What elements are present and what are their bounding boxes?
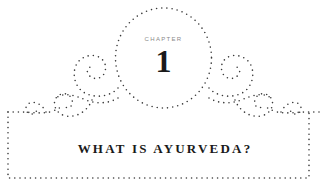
left-scroll-upper bbox=[74, 56, 118, 97]
chapter-opener: CHAPTER 1 WHAT IS AYURVEDA? bbox=[0, 0, 330, 185]
right-scroll-lower bbox=[235, 94, 273, 117]
right-scroll-tail bbox=[265, 106, 319, 113]
chapter-label: CHAPTER bbox=[115, 36, 212, 42]
right-scroll-arm bbox=[209, 95, 271, 103]
dotted-ornament-frame bbox=[0, 0, 330, 185]
chapter-number: 1 bbox=[115, 44, 212, 78]
left-scroll-arm bbox=[56, 95, 118, 103]
chapter-title: WHAT IS AYURVEDA? bbox=[20, 141, 310, 157]
left-scroll-tail bbox=[8, 106, 62, 113]
right-scroll-upper bbox=[209, 56, 253, 97]
left-scroll-lower bbox=[54, 94, 92, 117]
